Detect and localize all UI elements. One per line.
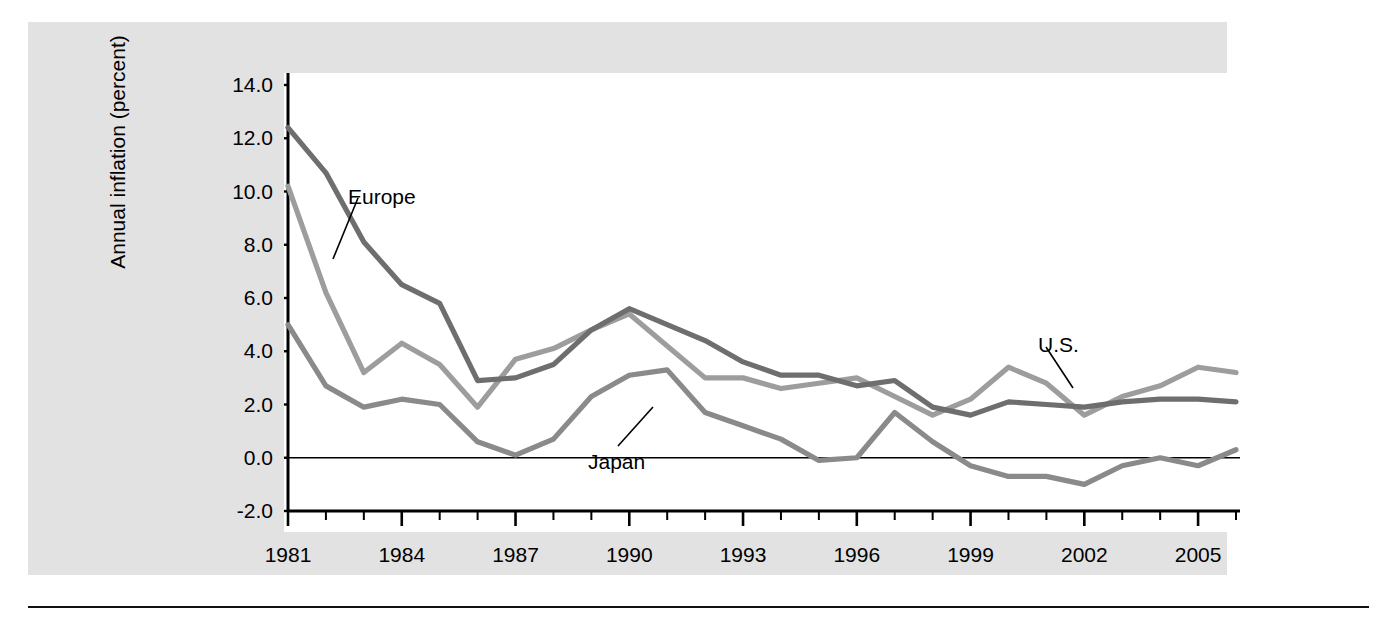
y-axis-tick-label: 12.0 (189, 126, 273, 150)
y-axis-tick-label: 6.0 (189, 286, 273, 310)
y-axis-tick-label: 8.0 (189, 233, 273, 257)
y-axis-tick-label: -2.0 (189, 499, 273, 523)
y-axis-tick-label: 2.0 (189, 393, 273, 417)
x-axis-tick-label: 1990 (606, 543, 653, 567)
y-axis-tick-label: 0.0 (189, 446, 273, 470)
x-axis-tick-label: 1984 (378, 543, 425, 567)
y-axis-title: Annual inflation (percent) (106, 2, 130, 302)
series-label-europe: Europe (348, 185, 416, 209)
x-axis-tick-label: 1999 (947, 543, 994, 567)
leader-line-japan (618, 407, 653, 446)
y-axis-tick-label: 10.0 (189, 180, 273, 204)
x-axis-tick-labels: 198119841987199019931996199920022005 (284, 543, 1264, 573)
y-axis-tick-label: 4.0 (189, 339, 273, 363)
y-axis-tick-label: 14.0 (189, 73, 273, 97)
series-label-us: U.S. (1038, 333, 1079, 357)
x-axis-tick-label: 1981 (265, 543, 312, 567)
x-axis-tick-label: 1987 (492, 543, 539, 567)
series-line-europe (288, 128, 1236, 416)
figure-root: Annual inflation (percent) 14.012.010.08… (0, 0, 1399, 618)
x-axis-tick-label: 2005 (1175, 543, 1222, 567)
line-chart-svg (284, 73, 1243, 532)
x-axis-tick-label: 2002 (1061, 543, 1108, 567)
figure-panel: Annual inflation (percent) 14.012.010.08… (28, 22, 1227, 575)
x-axis-tick-label: 1993 (720, 543, 767, 567)
y-axis-tick-labels: 14.012.010.08.06.04.02.00.0-2.0 (178, 73, 273, 532)
x-axis-tick-label: 1996 (833, 543, 880, 567)
series-label-japan: Japan (588, 450, 645, 474)
plot-canvas (284, 73, 1243, 532)
bottom-divider-rule (28, 606, 1369, 608)
